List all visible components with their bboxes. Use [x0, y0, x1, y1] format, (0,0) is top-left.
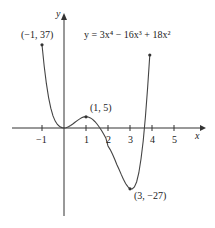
point-3-minus27	[128, 187, 131, 190]
x-tick-label: 4	[150, 135, 155, 145]
x-tick-label: 3	[128, 135, 133, 145]
curve-end-point	[148, 53, 151, 56]
point-label-3-minus27: (3, −27)	[134, 191, 166, 201]
equation-label: y = 3x⁴ − 16x³ + 18x²	[84, 30, 170, 40]
point-minus1-37	[40, 43, 43, 46]
x-tick-label: −1	[36, 135, 47, 145]
x-tick-label: 1	[84, 135, 89, 145]
x-tick-label: 2	[106, 135, 111, 145]
function-curve	[42, 45, 150, 189]
y-axis-label: y	[56, 9, 60, 19]
point-label-1-5: (1, 5)	[90, 103, 112, 113]
y-axis-arrow-icon	[61, 13, 67, 20]
x-axis-arrow-icon	[200, 125, 206, 131]
x-axis-label: x	[195, 131, 199, 141]
point-label-minus1-37: (−1, 37)	[21, 30, 53, 40]
point-1-5	[84, 115, 87, 118]
x-tick-label: 5	[172, 135, 177, 145]
